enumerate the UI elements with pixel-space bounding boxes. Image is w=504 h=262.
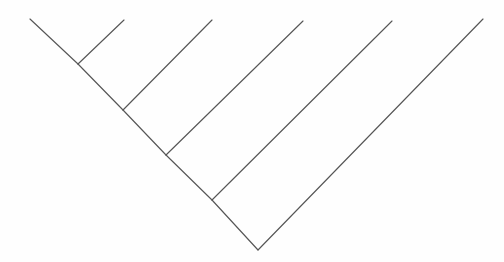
cladogram-canvas	[0, 0, 504, 262]
cladogram-svg	[0, 0, 504, 262]
canvas-background	[0, 0, 504, 262]
